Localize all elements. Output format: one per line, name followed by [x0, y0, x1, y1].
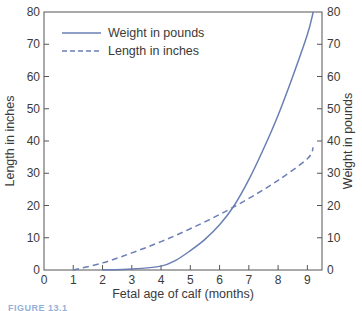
y-right-tick-label: 80 [327, 5, 341, 19]
legend: Weight in poundsLength in inches [62, 26, 204, 58]
x-tick-label: 5 [187, 273, 194, 287]
y-right-tick-label: 60 [327, 70, 341, 84]
y-left-tick-label: 10 [27, 231, 41, 245]
y-left-tick-label: 50 [27, 102, 41, 116]
x-tick-label: 8 [275, 273, 282, 287]
legend-label: Weight in pounds [108, 26, 204, 40]
x-tick-label: 0 [41, 273, 48, 287]
y-right-tick-label: 20 [327, 199, 341, 213]
chart-container: 0123456789010203040506070800102030405060… [0, 0, 362, 311]
y-axis-left-title: Length in inches [3, 95, 17, 186]
y-left-tick-label: 20 [27, 199, 41, 213]
y-right-tick-label: 50 [327, 102, 341, 116]
x-tick-label: 1 [70, 273, 77, 287]
line-chart: 0123456789010203040506070800102030405060… [0, 0, 362, 311]
figure-caption: FIGURE 13.1 [8, 303, 68, 311]
y-left-tick-label: 60 [27, 70, 41, 84]
y-axis-right-title: Weight in pounds [341, 93, 355, 189]
x-tick-label: 3 [128, 273, 135, 287]
x-tick-label: 9 [304, 273, 311, 287]
x-tick-label: 4 [158, 273, 165, 287]
y-right-tick-label: 40 [327, 134, 341, 148]
legend-label: Length in inches [108, 44, 199, 58]
series-line-length-in-inches [73, 147, 313, 270]
x-tick-label: 6 [216, 273, 223, 287]
x-tick-label: 7 [245, 273, 252, 287]
y-left-tick-label: 80 [27, 5, 41, 19]
y-left-tick-label: 40 [27, 134, 41, 148]
x-tick-label: 2 [99, 273, 106, 287]
x-axis-title: Fetal age of calf (months) [112, 287, 254, 301]
y-right-tick-label: 70 [327, 37, 341, 51]
y-left-tick-label: 0 [33, 263, 40, 277]
y-left-tick-label: 30 [27, 166, 41, 180]
y-right-tick-label: 10 [327, 231, 341, 245]
y-right-tick-label: 0 [327, 263, 334, 277]
y-left-tick-label: 70 [27, 37, 41, 51]
y-right-tick-label: 30 [327, 166, 341, 180]
